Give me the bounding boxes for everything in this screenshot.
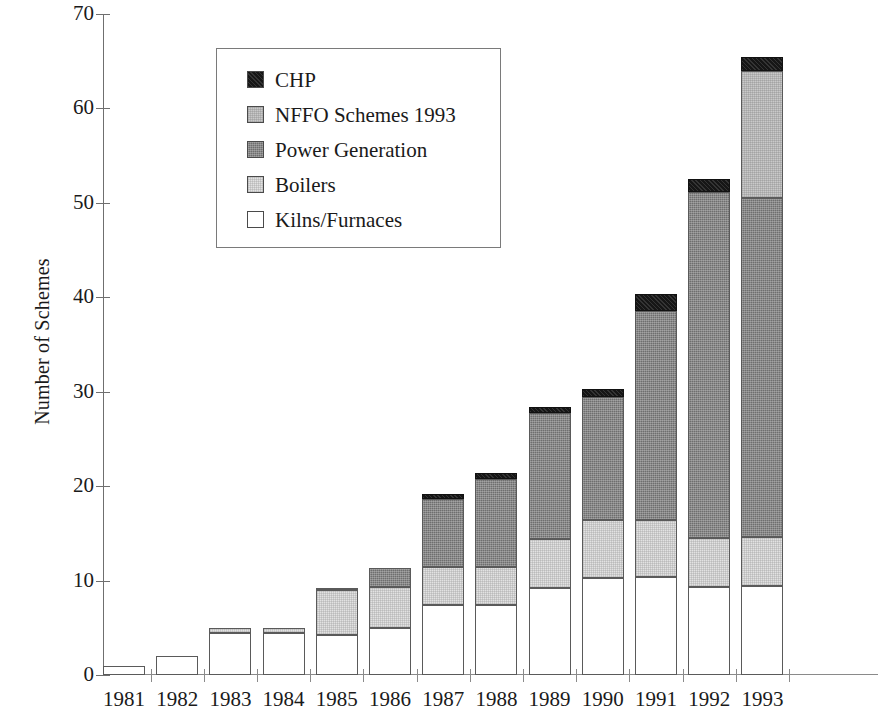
bar-segment[interactable] (475, 473, 517, 479)
legend-item[interactable]: Power Generation (247, 132, 500, 167)
y-tick-label: 30 (73, 379, 94, 404)
bar-segment[interactable] (422, 605, 464, 675)
bar-segment[interactable] (263, 628, 305, 633)
bar-segment[interactable] (529, 413, 571, 540)
legend-label: Power Generation (275, 138, 427, 162)
bar-segment[interactable] (582, 397, 624, 520)
legend-swatch-icon (247, 211, 264, 228)
legend-swatch-icon (247, 141, 264, 158)
y-tick-mark (96, 675, 110, 676)
bar-segment[interactable] (741, 198, 783, 537)
bar-segment[interactable] (582, 578, 624, 675)
legend-swatch-icon (247, 71, 264, 88)
legend-item[interactable]: Boilers (247, 167, 500, 202)
bar-segment[interactable] (688, 587, 730, 675)
y-tick-label: 40 (73, 284, 94, 309)
y-tick-label: 10 (73, 568, 94, 593)
bar-segment[interactable] (316, 635, 358, 675)
bar-segment[interactable] (422, 494, 464, 500)
y-axis-title: Number of Schemes (31, 212, 54, 472)
bar-segment[interactable] (316, 590, 358, 635)
legend-label: NFFO Schemes 1993 (275, 103, 456, 127)
bar-segment[interactable] (209, 633, 251, 675)
bar-segment[interactable] (369, 628, 411, 675)
legend-label: CHP (275, 68, 316, 92)
bar-segment[interactable] (529, 407, 571, 413)
legend-item[interactable]: CHP (247, 62, 500, 97)
bar-segment[interactable] (741, 586, 783, 675)
legend-item[interactable]: Kilns/Furnaces (247, 202, 500, 237)
legend-label: Boilers (275, 173, 336, 197)
bar-segment[interactable] (475, 567, 517, 605)
legend-item[interactable]: NFFO Schemes 1993 (247, 97, 500, 132)
bar-segment[interactable] (156, 656, 198, 675)
bar-segment[interactable] (422, 499, 464, 567)
bar-segment[interactable] (741, 71, 783, 198)
bar-segment[interactable] (529, 588, 571, 675)
y-tick-label: 70 (73, 1, 94, 26)
chart-legend: CHPNFFO Schemes 1993Power GenerationBoil… (216, 48, 501, 248)
bar-segment[interactable] (582, 389, 624, 397)
x-tick-label: 1993 (722, 686, 802, 712)
bar-segment[interactable] (635, 577, 677, 675)
y-tick-label: 60 (73, 95, 94, 120)
bar-segment[interactable] (529, 539, 571, 588)
bar-segment[interactable] (209, 628, 251, 633)
bar-segment[interactable] (582, 520, 624, 578)
x-axis-labels: 1981198219831984198519861987198819891990… (103, 686, 878, 716)
legend-swatch-icon (247, 176, 264, 193)
legend-swatch-icon (247, 106, 264, 123)
bar-segment[interactable] (263, 633, 305, 675)
bar-segment[interactable] (103, 666, 145, 675)
bar-segment[interactable] (475, 479, 517, 568)
bar-segment[interactable] (369, 587, 411, 628)
bar-segment[interactable] (688, 179, 730, 191)
bar-segment[interactable] (475, 605, 517, 675)
bar-segment[interactable] (688, 538, 730, 587)
bar-segment[interactable] (635, 294, 677, 311)
legend-label: Kilns/Furnaces (275, 208, 402, 232)
bar-segment[interactable] (369, 568, 411, 587)
bar-segment[interactable] (741, 57, 783, 70)
y-tick-label: 50 (73, 190, 94, 215)
bar-segment[interactable] (635, 520, 677, 577)
bar-segment[interactable] (688, 192, 730, 539)
y-tick-label: 20 (73, 473, 94, 498)
chart-container: Number of Schemes 010203040506070 198119… (0, 0, 881, 716)
bar-segment[interactable] (635, 311, 677, 521)
bar-segment[interactable] (316, 588, 358, 590)
bar-segment[interactable] (741, 537, 783, 586)
bar-segment[interactable] (422, 567, 464, 605)
y-tick-label: 0 (84, 662, 95, 687)
